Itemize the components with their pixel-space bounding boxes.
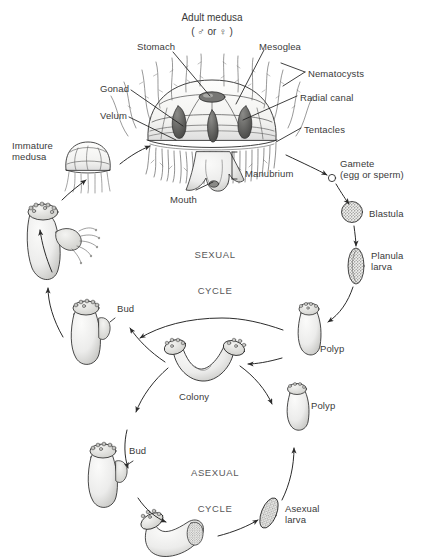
asexual-cycle-line2: CYCLE [183, 503, 247, 515]
label-polyp-upper: Polyp [320, 343, 344, 354]
budding-polyp-lower-figure [88, 442, 133, 507]
label-sexual-cycle: SEXUAL CYCLE [185, 225, 245, 321]
label-mesoglea: Mesoglea [259, 41, 301, 52]
label-gamete: Gamete (egg or sperm) [340, 158, 404, 180]
budding-polyp-upper-figure [71, 299, 115, 364]
sexual-cycle-line1: SEXUAL [185, 249, 245, 261]
label-polyp-lower: Polyp [311, 400, 335, 411]
label-stomach: Stomach [137, 41, 175, 52]
polyp-upper-figure [298, 302, 321, 355]
immature-medusa-figure [65, 142, 110, 193]
diagram-subtitle: ( ♂ or ♀ ) [152, 26, 272, 38]
colony-figure [162, 337, 246, 381]
label-planula-larva: Planula larva [371, 250, 403, 272]
blastula-figure [342, 202, 363, 223]
planula-larva-figure [348, 248, 364, 284]
diagram-title: Adult medusa [152, 12, 272, 24]
label-manubrium: Manubrium [245, 168, 293, 179]
diagram-canvas: Adult medusa ( ♂ or ♀ ) Stomach Mesoglea… [0, 0, 424, 559]
asexual-larva-figure [256, 495, 282, 530]
polyp-lower-figure [287, 383, 309, 431]
label-colony: Colony [179, 391, 209, 402]
label-asexual-larva: Asexual larva [285, 503, 320, 525]
label-velum: Velum [100, 110, 127, 121]
asexual-cycle-line1: ASEXUAL [183, 467, 247, 479]
label-tentacles: Tentacles [304, 124, 345, 135]
label-blastula: Blastula [369, 208, 404, 219]
label-bud-lower: Bud [129, 445, 146, 456]
label-mouth: Mouth [170, 194, 197, 205]
polyp-with-medusa-bud-figure [27, 202, 100, 280]
label-bud-upper: Bud [117, 303, 134, 314]
label-asexual-cycle: ASEXUAL CYCLE [183, 443, 247, 539]
sexual-cycle-line2: CYCLE [185, 285, 245, 297]
gamete-figure [328, 174, 335, 181]
label-radial-canal: Radial canal [300, 92, 353, 103]
label-immature-medusa: Immature medusa [12, 140, 53, 162]
label-gonad: Gonad [100, 83, 129, 94]
label-nematocysts: Nematocysts [308, 68, 364, 79]
